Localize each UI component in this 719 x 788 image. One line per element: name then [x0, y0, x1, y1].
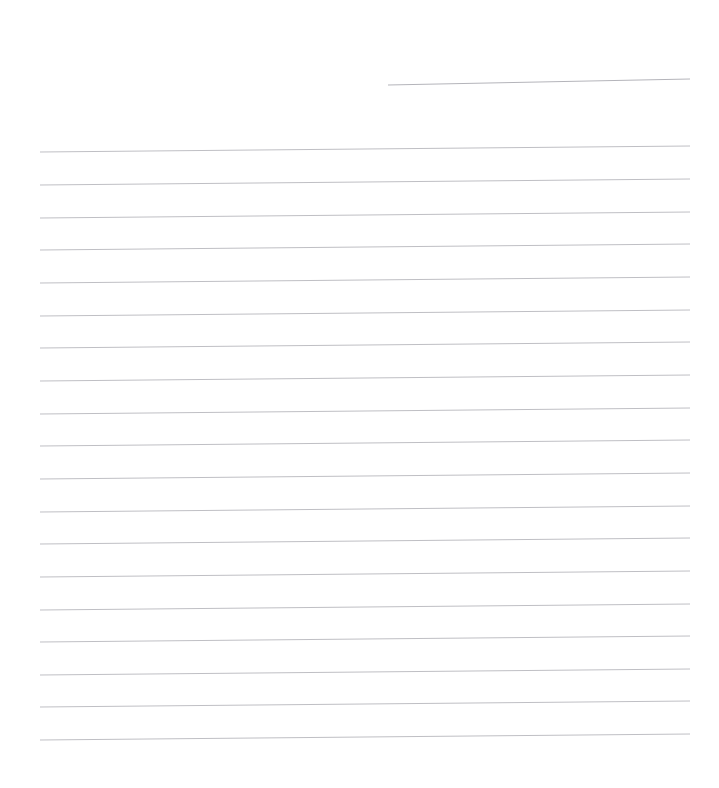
ruled-line [40, 146, 690, 152]
ruled-line [40, 636, 690, 642]
ruled-line [40, 506, 690, 512]
ruled-line [40, 342, 690, 348]
ruled-line [40, 408, 690, 414]
ruled-line [40, 375, 690, 381]
ruled-line [40, 310, 690, 316]
ruled-line [40, 244, 690, 250]
ruled-line [40, 701, 690, 707]
ruled-line [40, 473, 690, 479]
ruled-line [40, 179, 690, 185]
ruled-line [40, 604, 690, 610]
ruled-line [40, 734, 690, 740]
scanned-page: Blank Ruled Paper Scan [0, 0, 719, 788]
ruled-lines-layer [0, 0, 719, 788]
partial-ruled-line [388, 79, 690, 85]
ruled-line [40, 440, 690, 446]
ruled-line [40, 277, 690, 283]
ruled-line [40, 212, 690, 218]
ruled-line [40, 571, 690, 577]
ruled-line [40, 669, 690, 675]
ruled-line [40, 538, 690, 544]
